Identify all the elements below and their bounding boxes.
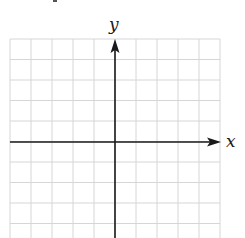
coordinate-plane: x y [0, 0, 245, 238]
cropped-glyph-remnant [53, 0, 57, 2]
y-axis-label: y [108, 14, 119, 34]
x-axis-label: x [226, 131, 236, 151]
